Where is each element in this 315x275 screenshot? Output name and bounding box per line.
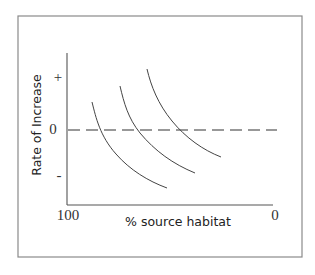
x-axis-label: % source habitat (125, 214, 231, 229)
y-tick-zero: 0 (49, 121, 57, 137)
y-axis-label: Rate of Increase (29, 74, 44, 176)
y-tick-minus: - (57, 167, 62, 183)
chart: + 0 - Rate of Increase 100 0 % source ha… (0, 0, 315, 275)
curve-3 (147, 69, 221, 157)
x-tick-0: 0 (271, 207, 279, 223)
curve-1 (92, 102, 167, 188)
x-tick-100: 100 (57, 207, 80, 223)
y-tick-plus: + (54, 69, 62, 85)
